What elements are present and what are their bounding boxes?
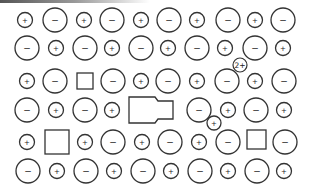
- minus-sign: −: [281, 137, 289, 147]
- minus-sign: −: [109, 76, 117, 86]
- anion-lattice: −: [243, 36, 267, 60]
- cation-lattice: +: [221, 164, 236, 179]
- plus-sign: +: [194, 17, 200, 25]
- cation-lattice: +: [77, 13, 92, 28]
- anion-lattice: −: [273, 130, 297, 154]
- minus-sign: −: [280, 76, 288, 86]
- minus-sign: −: [251, 43, 259, 53]
- cation-interstitial: +: [207, 116, 221, 130]
- cation-lattice: +: [190, 13, 205, 28]
- vacancy-square: [77, 73, 93, 89]
- plus-sign: +: [194, 78, 200, 86]
- minus-sign: −: [224, 137, 232, 147]
- plus-sign: +: [54, 168, 60, 176]
- anion-lattice: −: [216, 130, 240, 154]
- minus-sign: −: [81, 43, 89, 53]
- plus-sign: +: [109, 45, 115, 53]
- plus-sign: +: [196, 139, 202, 147]
- minus-sign: −: [195, 105, 203, 115]
- cation-lattice: +: [218, 41, 233, 56]
- plus-sign: +: [53, 107, 59, 115]
- cation-lattice: +: [20, 74, 35, 89]
- plus-sign: +: [225, 107, 231, 115]
- cation-lattice: +: [78, 135, 93, 150]
- cation-lattice: +: [248, 74, 263, 89]
- anion-lattice: −: [244, 98, 268, 122]
- plus-sign: +: [138, 78, 144, 86]
- plus-sign: +: [22, 17, 28, 25]
- anion-lattice: −: [131, 159, 155, 183]
- plus-sign: +: [165, 45, 171, 53]
- cation-lattice: +: [135, 135, 150, 150]
- cation-lattice: +: [105, 103, 120, 118]
- two-plus-label: 2+: [234, 61, 245, 70]
- cation-lattice: +: [20, 135, 35, 150]
- anion-lattice: −: [73, 98, 97, 122]
- vacancy-square: [45, 130, 69, 154]
- minus-sign: −: [23, 105, 31, 115]
- minus-sign: −: [193, 43, 201, 53]
- plus-sign: +: [138, 17, 144, 25]
- minus-sign: −: [253, 166, 261, 176]
- vacancy-square: [247, 130, 266, 149]
- plus-sign: +: [281, 107, 287, 115]
- cation-lattice: +: [49, 103, 64, 118]
- plus-sign: +: [168, 168, 174, 176]
- cation-lattice: +: [277, 103, 292, 118]
- anion-lattice: −: [74, 159, 98, 183]
- plus-sign: +: [211, 120, 217, 128]
- cation-lattice: +: [107, 164, 122, 179]
- divalent-cation-interstitial: 2+: [233, 58, 247, 72]
- minus-sign: −: [51, 76, 59, 86]
- anion-lattice: −: [187, 98, 211, 122]
- minus-sign: −: [24, 166, 32, 176]
- anion-lattice: −: [101, 69, 125, 93]
- cation-lattice: +: [49, 41, 64, 56]
- plus-sign: +: [222, 45, 228, 53]
- minus-sign: −: [279, 15, 287, 25]
- cation-lattice: +: [134, 13, 149, 28]
- anion-lattice: −: [129, 36, 153, 60]
- minus-sign: −: [82, 166, 90, 176]
- plus-sign: +: [24, 139, 30, 147]
- anion-lattice: −: [185, 36, 209, 60]
- minus-sign: −: [223, 76, 231, 86]
- plus-sign: +: [24, 78, 30, 86]
- cation-lattice: +: [18, 13, 33, 28]
- minus-sign: −: [139, 166, 147, 176]
- anion-lattice: −: [156, 69, 180, 93]
- plus-sign: +: [139, 139, 145, 147]
- cation-lattice: +: [161, 41, 176, 56]
- plus-sign: +: [252, 78, 258, 86]
- ionic-lattice-diagram: +−+−+−+−+−−+−+−+−+−++−−+−+−+−−+−+−+−+++−…: [0, 0, 314, 193]
- anion-lattice: −: [43, 69, 67, 93]
- cation-lattice: +: [164, 164, 179, 179]
- plus-sign: +: [53, 45, 59, 53]
- anion-lattice: −: [100, 8, 124, 32]
- anion-lattice: −: [15, 36, 39, 60]
- anion-lattice: −: [16, 159, 40, 183]
- minus-sign: −: [51, 15, 59, 25]
- minus-sign: −: [252, 105, 260, 115]
- minus-sign: −: [81, 105, 89, 115]
- plus-sign: +: [281, 168, 287, 176]
- cation-lattice: +: [276, 41, 291, 56]
- anion-lattice: −: [101, 130, 125, 154]
- minus-sign: −: [164, 76, 172, 86]
- cation-lattice: +: [277, 164, 292, 179]
- plus-sign: +: [81, 17, 87, 25]
- minus-sign: −: [224, 15, 232, 25]
- anion-lattice: −: [43, 8, 67, 32]
- anion-lattice: −: [157, 8, 181, 32]
- minus-sign: −: [165, 15, 173, 25]
- cation-lattice: +: [50, 164, 65, 179]
- plus-sign: +: [82, 139, 88, 147]
- anion-lattice: −: [73, 36, 97, 60]
- plus-sign: +: [280, 45, 286, 53]
- anion-lattice: −: [215, 69, 239, 93]
- minus-sign: −: [23, 43, 31, 53]
- cation-lattice: +: [248, 13, 263, 28]
- cation-lattice: +: [134, 74, 149, 89]
- minus-sign: −: [109, 137, 117, 147]
- anion-lattice: −: [15, 98, 39, 122]
